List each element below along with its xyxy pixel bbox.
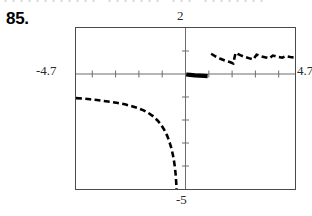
data-series-left-branch	[76, 98, 177, 189]
problem-number: 85.	[6, 9, 29, 29]
data-series-right-branch-upper	[211, 53, 294, 64]
page-bleed-row: ............ ....... ... ........	[0, 0, 312, 7]
window-xmin-label: -4.7	[36, 63, 57, 79]
calculator-screen	[75, 27, 296, 190]
window-ymax-label: 2	[177, 8, 184, 24]
window-xmax-label: 4.7	[297, 63, 312, 79]
graph-plot-area	[76, 28, 295, 189]
window-ymin-label: -5	[176, 192, 187, 208]
data-series-right-branch-near-axis	[186, 74, 207, 76]
page-bleed-text: ............ ....... ... ........	[4, 0, 268, 6]
